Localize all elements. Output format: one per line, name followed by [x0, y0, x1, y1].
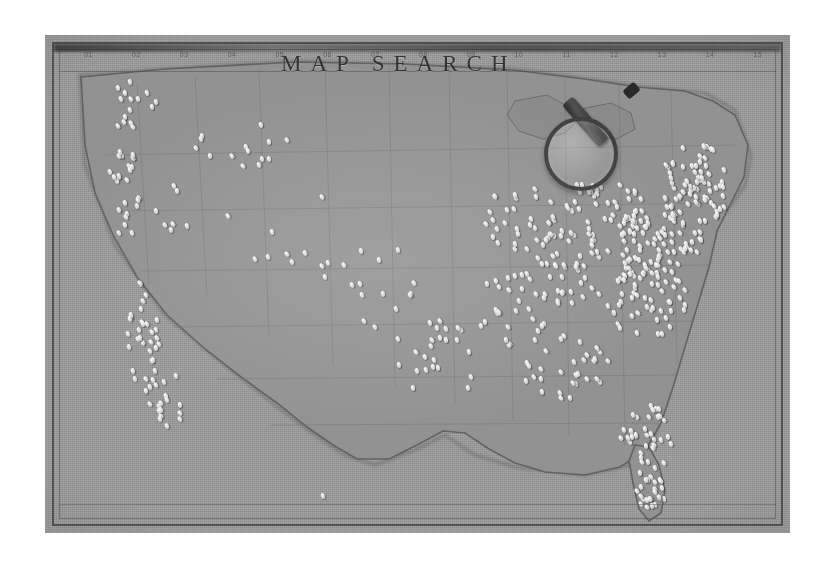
magnifier-handle-cap [622, 81, 641, 99]
map-photograph: 010203040506070809101112131415 MAP SEARC… [45, 35, 790, 533]
magnifier-lens [544, 117, 618, 191]
magnifying-glass-icon [540, 83, 675, 188]
united-states-map [45, 35, 790, 533]
map-title: MAP SEARCH [281, 51, 517, 77]
